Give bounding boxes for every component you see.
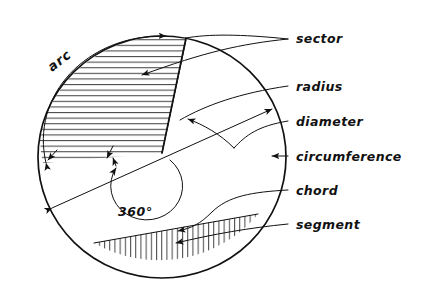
label-chord: chord: [296, 183, 339, 198]
label-angle-360: 360°: [118, 204, 153, 219]
label-circumference: circumference: [296, 149, 402, 164]
label-arc: arc: [45, 47, 75, 75]
radius-leader: [180, 86, 288, 120]
label-radius: radius: [296, 79, 343, 94]
label-sector: sector: [296, 31, 343, 46]
circle-parts-diagram: sector radius diameter circumference cho…: [0, 0, 429, 299]
label-diameter: diameter: [296, 114, 363, 129]
label-segment: segment: [296, 217, 361, 232]
diameter-leader: [234, 121, 288, 148]
segment-region: [85, 205, 270, 285]
